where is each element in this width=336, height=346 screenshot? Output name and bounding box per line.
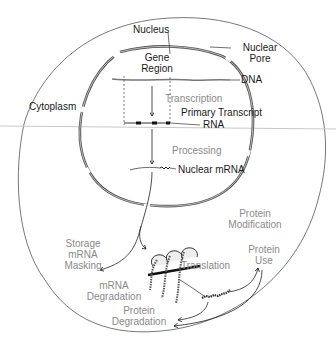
polysome	[148, 248, 200, 303]
label-cytoplasm: Cytoplasm	[29, 101, 76, 112]
label-nuclear-pore-line2: Pore	[240, 53, 280, 64]
scan-line	[0, 126, 336, 129]
label-storage-mrna-masking: Storage mRNA Masking	[58, 238, 108, 271]
nuclear-pore-leader	[210, 47, 231, 48]
protein-use-arrow	[228, 268, 258, 292]
label-protein-modification-line1: Protein	[224, 208, 286, 219]
label-gene-region-line2: Region	[132, 63, 182, 74]
label-protein-use-line1: Protein	[244, 244, 284, 255]
label-mrna-degradation-line1: mRNA	[84, 280, 144, 291]
label-nuclear-pore-line1: Nuclear	[240, 42, 280, 53]
label-protein-modification: Protein Modification	[224, 208, 286, 230]
label-protein-degradation-line1: Protein	[108, 305, 170, 316]
protein-degradation-arrow-1	[178, 302, 208, 320]
label-storage-line1: Storage	[58, 238, 108, 249]
label-protein-modification-line2: Modification	[224, 219, 286, 230]
label-rna: RNA	[203, 119, 224, 130]
label-protein-degradation: Protein Degradation	[108, 305, 170, 327]
label-protein-use-line2: Use	[244, 255, 284, 266]
label-gene-region-line1: Gene	[132, 52, 182, 63]
label-processing: Processing	[172, 145, 221, 156]
label-storage-line3: Masking	[58, 260, 108, 271]
label-nuclear-pore: Nuclear Pore	[240, 42, 280, 64]
label-primary-transcript: Primary Transcript	[181, 107, 262, 118]
label-mrna-degradation: mRNA Degradation	[84, 280, 144, 302]
label-protein-use: Protein Use	[244, 244, 284, 266]
label-transcription: Transcription	[165, 93, 222, 104]
nucleus-leader	[168, 32, 170, 54]
nuclear-mrna	[130, 167, 176, 170]
label-dna: DNA	[241, 74, 262, 85]
protein-degradation-arrow-2	[174, 270, 262, 326]
label-storage-line2: mRNA	[58, 249, 108, 260]
label-gene-region: Gene Region	[132, 52, 182, 74]
label-mrna-degradation-line2: Degradation	[84, 291, 144, 302]
label-nuclear-mrna: Nuclear mRNA	[178, 164, 245, 175]
label-nucleus: Nucleus	[133, 24, 169, 35]
label-protein-degradation-line2: Degradation	[108, 316, 170, 327]
dna-strand	[112, 79, 230, 80]
primary-transcript	[124, 122, 200, 126]
protein-chain	[202, 290, 230, 298]
label-translation: Translation	[181, 260, 230, 271]
